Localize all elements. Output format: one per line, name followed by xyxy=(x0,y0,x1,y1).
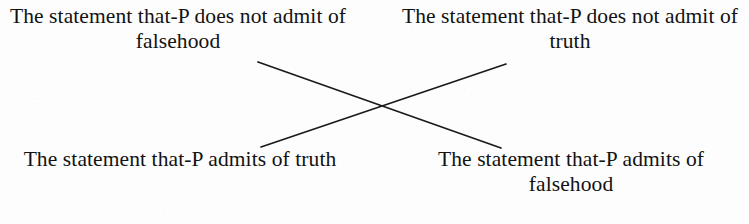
diagonal-top-left-to-bottom-right xyxy=(258,62,501,148)
proposition-bottom-right: The statement that-P admits of falsehood xyxy=(398,147,744,197)
proposition-top-right: The statement that-P does not admit of t… xyxy=(396,4,744,54)
proposition-bottom-left: The statement that-P admits of truth xyxy=(4,147,356,172)
diagonal-bottom-left-to-top-right xyxy=(261,64,506,147)
proposition-top-left: The statement that-P does not admit of f… xyxy=(4,4,352,54)
logical-square-diagram: The statement that-P does not admit of f… xyxy=(0,0,749,224)
